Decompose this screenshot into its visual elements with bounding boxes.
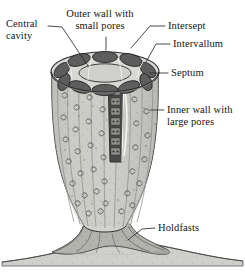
label-outer-wall-line2: small pores	[75, 20, 124, 31]
leader-intervallum	[146, 44, 170, 62]
label-central-cavity-line2: cavity	[6, 30, 32, 41]
label-intersept: Intersept	[168, 20, 206, 32]
label-septum: Septum	[171, 67, 204, 79]
label-holdfasts: Holdfasts	[158, 222, 199, 234]
label-outer-wall-line1: Outer wall with	[66, 8, 133, 19]
label-inner-wall: Inner wall with large pores	[167, 104, 245, 127]
archaeocyathid-figure: Central cavity Outer wall with small por…	[0, 0, 245, 273]
label-central-cavity-line1: Central	[6, 18, 38, 29]
label-intervallum: Intervallum	[173, 38, 223, 50]
label-central-cavity: Central cavity	[6, 18, 50, 41]
label-inner-wall-line2: large pores	[167, 116, 214, 127]
label-inner-wall-line1: Inner wall with	[167, 104, 233, 115]
label-outer-wall: Outer wall with small pores	[55, 8, 145, 31]
